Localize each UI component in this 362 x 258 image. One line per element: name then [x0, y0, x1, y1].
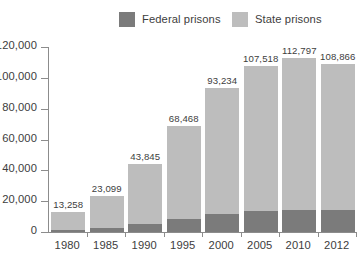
- x-tick-label: 1995: [164, 239, 203, 251]
- y-tick: 40,000: [0, 170, 48, 171]
- bar-segment-federal: [244, 211, 278, 232]
- y-tick-mark: [41, 140, 48, 141]
- y-tick-mark: [41, 78, 48, 79]
- bar-value-label: 93,234: [207, 75, 237, 86]
- bar-value-label: 13,258: [53, 199, 83, 210]
- y-tick-mark: [41, 201, 48, 202]
- x-tick-label: 1980: [48, 239, 87, 251]
- bar-segment-state: [167, 126, 201, 232]
- bar-group: 68,468: [167, 126, 201, 232]
- chart-legend: Federal prisons State prisons: [0, 10, 362, 30]
- y-tick-label: 20,000: [2, 193, 37, 205]
- bar-segment-federal: [282, 210, 316, 232]
- bar-segment-state: [282, 58, 316, 232]
- x-tick-label: 1990: [125, 239, 164, 251]
- bar-segment-federal: [51, 230, 85, 232]
- bar-value-label: 68,468: [169, 113, 199, 124]
- legend-item-state: State prisons: [232, 10, 322, 28]
- bar-group: 13,258: [51, 212, 85, 232]
- bar-segment-federal: [167, 219, 201, 232]
- y-tick: 0: [0, 232, 48, 233]
- y-tick: 100,000: [0, 78, 48, 79]
- x-tick-label: 2005: [241, 239, 280, 251]
- y-tick-label: 80,000: [2, 101, 37, 113]
- y-tick: 80,000: [0, 109, 48, 110]
- bar-value-label: 108,866: [320, 51, 355, 62]
- x-tick-mark: [202, 233, 203, 237]
- bar-value-label: 43,845: [130, 151, 160, 162]
- bar-segment-state: [128, 164, 162, 232]
- y-tick-label: 100,000: [0, 70, 37, 82]
- bar-segment-federal: [90, 228, 124, 232]
- x-tick-label: 1985: [87, 239, 126, 251]
- legend-item-federal: Federal prisons: [119, 10, 221, 28]
- x-tick-mark: [164, 233, 165, 237]
- bar-segment-state: [90, 196, 124, 232]
- legend-label-federal: Federal prisons: [142, 13, 221, 25]
- bar-group: 112,797: [282, 58, 316, 232]
- y-tick-label: 60,000: [2, 132, 37, 144]
- legend-swatch-federal: [119, 12, 135, 27]
- x-tick-label: 2012: [318, 239, 357, 251]
- bar-segment-federal: [321, 210, 355, 232]
- plot-area: 13,25823,09943,84568,46893,234107,518112…: [48, 47, 356, 232]
- y-tick-mark: [41, 47, 48, 48]
- bar-segment-state: [205, 88, 239, 232]
- bar-group: 93,234: [205, 88, 239, 232]
- y-tick-mark: [41, 232, 48, 233]
- bar-segment-state: [321, 64, 355, 232]
- legend-label-state: State prisons: [255, 13, 322, 25]
- x-tick-mark: [318, 233, 319, 237]
- x-tick-mark: [241, 233, 242, 237]
- bar-segment-federal: [205, 214, 239, 233]
- bar-group: 107,518: [244, 66, 278, 232]
- x-tick-mark: [125, 233, 126, 237]
- y-tick: 60,000: [0, 140, 48, 141]
- bar-value-label: 107,518: [243, 53, 278, 64]
- y-tick-mark: [41, 170, 48, 171]
- y-tick-label: 40,000: [2, 162, 37, 174]
- y-tick-label: 120,000: [0, 39, 37, 51]
- x-tick-label: 2010: [279, 239, 318, 251]
- x-tick-mark: [356, 233, 357, 237]
- x-tick-mark: [87, 233, 88, 237]
- y-tick: 20,000: [0, 201, 48, 202]
- bar-group: 43,845: [128, 164, 162, 232]
- bar-segment-federal: [128, 224, 162, 232]
- legend-swatch-state: [232, 12, 248, 27]
- x-tick-mark: [279, 233, 280, 237]
- bar-value-label: 112,797: [282, 45, 317, 56]
- y-tick-label: 0: [31, 224, 37, 236]
- bar-chart: Federal prisons State prisons 020,00040,…: [0, 0, 362, 258]
- x-tick-label: 2000: [202, 239, 241, 251]
- bar-group: 108,866: [321, 64, 355, 232]
- bar-value-label: 23,099: [92, 183, 122, 194]
- y-tick-mark: [41, 109, 48, 110]
- bar-group: 23,099: [90, 196, 124, 232]
- bar-segment-state: [244, 66, 278, 232]
- y-tick: 120,000: [0, 47, 48, 48]
